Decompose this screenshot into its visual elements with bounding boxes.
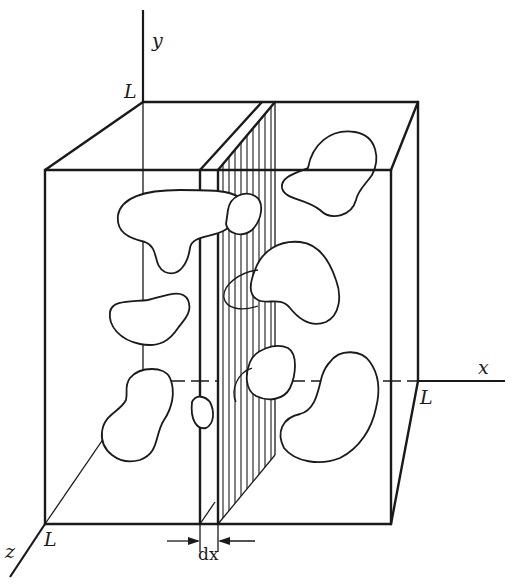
x-axis-label: x [478, 356, 489, 378]
slab-dx [200, 102, 275, 524]
dx-arrowhead-right-icon [218, 537, 230, 545]
bottom-right-depth-edge [391, 381, 418, 524]
particle-behind-slab-small [192, 397, 213, 429]
slab-hatched-face [218, 102, 275, 524]
top-left-depth-edge [45, 102, 143, 170]
slab-thickness-label: dx [198, 544, 219, 564]
y-axis-label: y [151, 29, 163, 51]
z-axis-line [10, 524, 45, 577]
particle-left-middle [110, 294, 190, 345]
corner-label-back-top-left: L [123, 80, 137, 102]
particle-top-right [282, 131, 376, 216]
cube-diagram: y x z L L L dx [0, 0, 520, 584]
corner-label-front-bottom-left: L [43, 528, 57, 550]
top-right-depth-edge [391, 102, 418, 170]
particle-left-lower [102, 369, 173, 461]
slab-bottom-depth-left [200, 502, 215, 524]
z-axis-label: z [4, 540, 16, 562]
corner-label-back-bottom-right: L [419, 386, 433, 408]
